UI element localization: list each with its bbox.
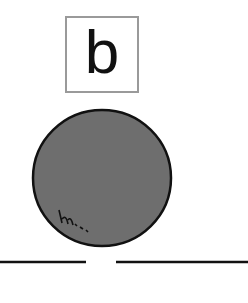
ball <box>33 110 171 246</box>
diagram-canvas <box>0 0 248 303</box>
